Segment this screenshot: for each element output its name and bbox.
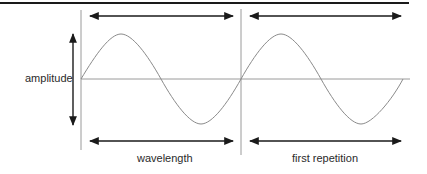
wavelength-label: wavelength xyxy=(137,153,193,164)
diagram-canvas xyxy=(0,0,427,174)
amplitude-label: amplitude xyxy=(25,73,73,84)
sine-wave-diagram: amplitude wavelength first repetition xyxy=(0,0,427,174)
first-repetition-label: first repetition xyxy=(292,153,358,164)
